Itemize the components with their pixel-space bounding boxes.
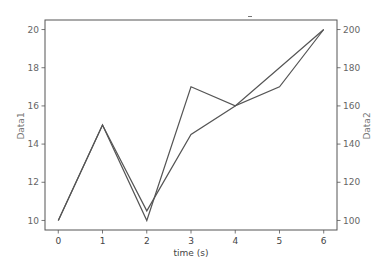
y-tick-label-right: 100 [343, 216, 360, 226]
x-tick-label: 4 [232, 236, 238, 246]
x-tick-label: 3 [188, 236, 194, 246]
plot-frame [45, 20, 337, 230]
y-tick-label-right: 180 [343, 63, 360, 73]
dual-axis-line-chart: 0123456 101214161820 100120140160180200 … [0, 0, 387, 273]
y-tick-label-left: 12 [28, 177, 39, 187]
y-tick-label-left: 16 [28, 101, 40, 111]
x-tick-label: 0 [55, 236, 61, 246]
y-axis-label-right: Data2 [362, 112, 372, 139]
series-line-data2 [58, 30, 323, 221]
y-axis-left: 101214161820 [28, 25, 45, 226]
y-axis-right: 100120140160180200 [337, 25, 360, 226]
x-axis: 0123456 [55, 230, 326, 246]
y-tick-label-left: 10 [28, 216, 40, 226]
y-tick-label-right: 140 [343, 139, 360, 149]
x-tick-label: 6 [321, 236, 327, 246]
x-axis-label: time (s) [174, 248, 209, 258]
y-tick-label-left: 18 [28, 63, 40, 73]
y-tick-label-right: 160 [343, 101, 360, 111]
series-line-data1 [58, 30, 323, 221]
y-tick-label-left: 20 [28, 25, 40, 35]
y-axis-label-left: Data1 [16, 112, 26, 139]
y-tick-label-right: 120 [343, 177, 360, 187]
x-tick-label: 2 [144, 236, 150, 246]
title-mark [248, 16, 252, 17]
plot-lines [58, 30, 323, 221]
y-tick-label-right: 200 [343, 25, 360, 35]
x-tick-label: 1 [100, 236, 106, 246]
y-tick-label-left: 14 [28, 139, 40, 149]
x-tick-label: 5 [277, 236, 283, 246]
